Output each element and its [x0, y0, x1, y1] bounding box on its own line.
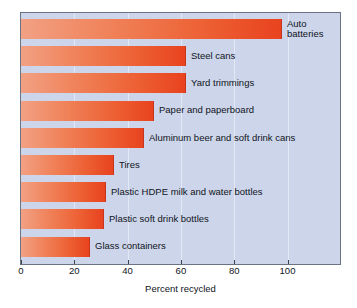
- bar-row: Aluminum beer and soft drink cans: [21, 128, 295, 148]
- bar: [21, 155, 114, 175]
- bar-label: Steel cans: [186, 51, 235, 62]
- bar-label: Plastic soft drink bottles: [104, 214, 209, 225]
- bar: [21, 237, 90, 257]
- bar-row: Plastic HDPE milk and water bottles: [21, 182, 263, 202]
- bar-label: Aluminum beer and soft drink cans: [144, 133, 295, 144]
- bar: [21, 19, 282, 39]
- bar-row: Yard trimmings: [21, 73, 254, 93]
- x-tick-label-40: 40: [122, 265, 133, 276]
- tick-mark-0: [21, 260, 22, 264]
- bar: [21, 128, 144, 148]
- bar: [21, 182, 106, 202]
- x-tick-label-60: 60: [176, 265, 187, 276]
- x-axis: 020406080100: [20, 265, 341, 279]
- x-axis-title: Percent recycled: [20, 283, 341, 294]
- tick-mark-20: [74, 260, 75, 264]
- bar-label: Yard trimmings: [186, 78, 254, 89]
- bar-row: Glass containers: [21, 237, 166, 257]
- bar-row: Steel cans: [21, 46, 235, 66]
- tick-mark-40: [128, 260, 129, 264]
- x-tick-label-100: 100: [280, 265, 296, 276]
- bar-row: Auto batteries: [21, 19, 323, 39]
- x-tick-label-80: 80: [229, 265, 240, 276]
- tick-mark-80: [234, 260, 235, 264]
- bar: [21, 46, 186, 66]
- x-tick-label-20: 20: [69, 265, 80, 276]
- tick-mark-100: [288, 260, 289, 264]
- bar-label: Plastic HDPE milk and water bottles: [106, 187, 263, 198]
- bar: [21, 101, 154, 121]
- bar-row: Plastic soft drink bottles: [21, 209, 209, 229]
- bar-label: Paper and paperboard: [154, 105, 254, 116]
- bar-row: Paper and paperboard: [21, 101, 254, 121]
- bar: [21, 209, 104, 229]
- bar-label: Tires: [114, 160, 140, 171]
- bar-row: Tires: [21, 155, 140, 175]
- bar-label: Auto batteries: [282, 19, 323, 40]
- tick-mark-60: [181, 260, 182, 264]
- x-tick-label-0: 0: [18, 265, 23, 276]
- bar: [21, 73, 186, 93]
- bar-label: Glass containers: [90, 241, 166, 252]
- bars-layer: Auto batteriesSteel cansYard trimmingsPa…: [21, 13, 340, 264]
- plot-area: Auto batteriesSteel cansYard trimmingsPa…: [20, 12, 341, 265]
- bar-chart-figure: Auto batteriesSteel cansYard trimmingsPa…: [0, 0, 357, 308]
